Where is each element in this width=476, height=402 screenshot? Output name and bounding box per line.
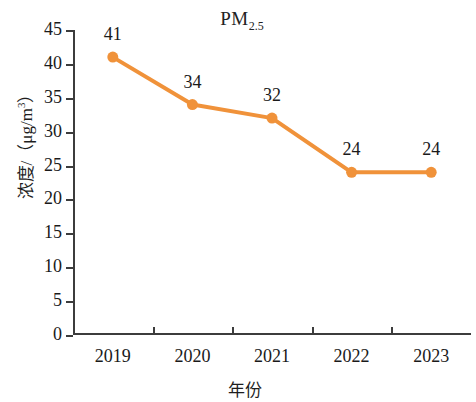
series-line-and-markers: [73, 30, 471, 335]
data-point-label: 41: [78, 24, 148, 45]
y-axis-tick-label: 30: [22, 121, 62, 141]
chart-title: PM2.5: [0, 9, 476, 32]
x-axis-title: 年份: [0, 376, 476, 401]
y-axis-tick-label: 5: [22, 290, 62, 310]
data-point-label: 34: [157, 72, 227, 93]
y-axis-tick-label: 25: [22, 155, 62, 175]
x-axis-tick-label: 2020: [152, 346, 232, 367]
y-axis-tick: [66, 301, 73, 303]
data-point-label: 24: [317, 139, 387, 160]
y-axis-tick-label: 0: [22, 324, 62, 344]
y-axis-tick: [66, 233, 73, 235]
data-point-marker[interactable]: [187, 99, 198, 110]
y-axis-tick: [66, 166, 73, 168]
data-point-label: 24: [396, 139, 466, 160]
y-axis-tick: [66, 335, 73, 337]
y-axis-tick-label: 40: [22, 53, 62, 73]
data-point-marker[interactable]: [426, 167, 437, 178]
y-axis-tick: [66, 267, 73, 269]
y-axis-tick-label: 35: [22, 87, 62, 107]
data-point-label: 32: [237, 85, 307, 106]
x-axis-tick-label: 2022: [312, 346, 392, 367]
plot-area: 051015202530354045 20192020202120222023 …: [73, 30, 471, 335]
y-axis-tick: [66, 199, 73, 201]
y-axis-tick-label: 15: [22, 222, 62, 242]
x-axis-tick-label: 2019: [73, 346, 153, 367]
y-axis-tick-label: 10: [22, 256, 62, 276]
data-point-marker[interactable]: [346, 167, 357, 178]
y-axis-tick: [66, 64, 73, 66]
data-point-marker[interactable]: [267, 113, 278, 124]
chart-title-main: PM: [220, 8, 248, 29]
pm25-line-chart: PM2.5 浓度/（μg/m3） 年份 051015202530354045 2…: [0, 0, 476, 402]
y-axis-tick-label: 45: [22, 19, 62, 39]
x-axis-tick-label: 2021: [232, 346, 312, 367]
y-axis-tick: [66, 132, 73, 134]
data-point-marker[interactable]: [107, 52, 118, 63]
y-axis-tick-label: 20: [22, 188, 62, 208]
y-axis-tick: [66, 98, 73, 100]
y-axis-tick: [66, 30, 73, 32]
x-axis-tick-label: 2023: [391, 346, 471, 367]
